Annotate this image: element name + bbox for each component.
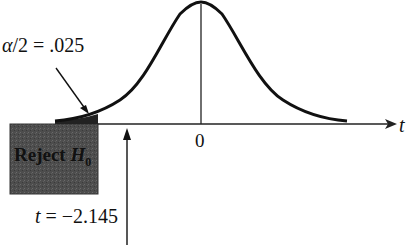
h-subscript: 0 xyxy=(85,155,91,169)
reject-text: Reject xyxy=(14,144,70,165)
t-axis-label: t xyxy=(399,114,405,137)
alpha-pointer xyxy=(56,68,86,110)
critical-value-arrowhead-icon xyxy=(123,128,131,140)
alpha-label: α/2 = .025 xyxy=(2,34,84,57)
critical-value: = −2.145 xyxy=(41,205,119,227)
alpha-symbol: α xyxy=(2,34,13,56)
reject-h0-label: Reject H0 xyxy=(14,144,91,170)
alpha-pointer-arrowhead-icon xyxy=(80,105,89,114)
h-symbol: H xyxy=(70,144,85,165)
critical-value-label: t = −2.145 xyxy=(35,205,118,228)
zero-tick-label: 0 xyxy=(195,130,205,152)
alpha-value: /2 = .025 xyxy=(13,34,85,56)
